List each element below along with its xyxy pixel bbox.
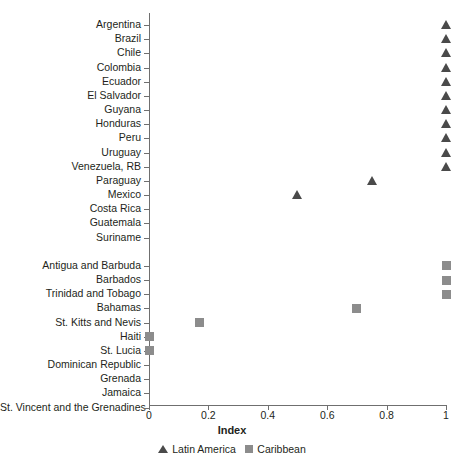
- data-point-triangle: [441, 162, 451, 171]
- legend-item-caribbean[interactable]: Caribbean: [245, 443, 306, 455]
- category-label: Chile: [0, 47, 141, 58]
- y-axis-tick: [144, 308, 149, 309]
- data-point-triangle: [292, 190, 302, 199]
- category-label: Grenada: [0, 373, 141, 384]
- y-axis-tick: [144, 238, 149, 239]
- category-label: St. Vincent and the Grenadines: [0, 402, 141, 413]
- data-point-square: [352, 304, 361, 313]
- square-marker-icon: [245, 445, 254, 454]
- category-label: Guyana: [0, 104, 141, 115]
- data-point-triangle: [441, 133, 451, 142]
- category-label: Peru: [0, 132, 141, 143]
- y-axis-tick: [144, 96, 149, 97]
- category-label: Colombia: [0, 62, 141, 73]
- data-point-triangle: [441, 119, 451, 128]
- data-point-triangle: [441, 91, 451, 100]
- category-label: Dominican Republic: [0, 359, 141, 370]
- legend-item-latin-america[interactable]: Latin America: [158, 443, 236, 455]
- data-point-triangle: [441, 105, 451, 114]
- y-axis-tick: [144, 195, 149, 196]
- y-axis-tick: [144, 181, 149, 182]
- category-label: Haiti: [0, 331, 141, 342]
- x-axis-title: Index: [0, 424, 464, 436]
- y-axis-tick: [144, 365, 149, 366]
- category-label: Barbados: [0, 274, 141, 285]
- category-label: El Salvador: [0, 90, 141, 101]
- y-axis-tick: [144, 266, 149, 267]
- category-label: Mexico: [0, 189, 141, 200]
- category-label: Jamaica: [0, 387, 141, 398]
- x-axis-line: [149, 405, 446, 406]
- y-axis-tick: [144, 124, 149, 125]
- category-label: Uruguay: [0, 147, 141, 158]
- x-axis-tick-label: 1: [443, 409, 449, 421]
- y-axis-tick: [144, 110, 149, 111]
- x-axis-tick-label: 0: [146, 409, 152, 421]
- data-point-triangle: [367, 176, 377, 185]
- data-point-triangle: [441, 34, 451, 43]
- data-point-triangle: [441, 63, 451, 72]
- legend-label: Caribbean: [257, 443, 305, 455]
- category-label: Guatemala: [0, 217, 141, 228]
- category-label: Argentina: [0, 19, 141, 30]
- data-point-square: [442, 261, 451, 270]
- category-label: Costa Rica: [0, 203, 141, 214]
- category-label: St. Kitts and Nevis: [0, 317, 141, 328]
- data-point-triangle: [441, 48, 451, 57]
- data-point-square: [145, 346, 154, 355]
- y-axis-tick: [144, 153, 149, 154]
- category-label: St. Lucia: [0, 345, 141, 356]
- data-point-triangle: [441, 20, 451, 29]
- category-label: Antigua and Barbuda: [0, 260, 141, 271]
- y-axis-tick: [144, 379, 149, 380]
- data-point-square: [145, 332, 154, 341]
- category-label: Trinidad and Tobago: [0, 288, 141, 299]
- x-axis-tick-label: 0.6: [320, 409, 335, 421]
- y-axis-tick: [144, 209, 149, 210]
- y-axis-tick: [144, 167, 149, 168]
- category-label: Bahamas: [0, 302, 141, 313]
- x-axis-tick-label: 0.4: [260, 409, 275, 421]
- x-axis-tick-label: 0.8: [379, 409, 394, 421]
- data-point-triangle: [441, 77, 451, 86]
- y-axis-tick: [144, 223, 149, 224]
- y-axis-tick: [144, 39, 149, 40]
- data-point-square: [442, 276, 451, 285]
- data-point-square: [442, 290, 451, 299]
- scatter-chart: ArgentinaBrazilChileColombiaEcuadorEl Sa…: [0, 0, 464, 463]
- category-label: Ecuador: [0, 76, 141, 87]
- triangle-marker-icon: [158, 445, 168, 453]
- y-axis-tick: [144, 53, 149, 54]
- y-axis-tick: [144, 25, 149, 26]
- y-axis-tick: [144, 294, 149, 295]
- category-label: Paraguay: [0, 175, 141, 186]
- category-label: Venezuela, RB: [0, 161, 141, 172]
- data-point-square: [195, 318, 204, 327]
- category-label: Brazil: [0, 33, 141, 44]
- y-axis-tick: [144, 323, 149, 324]
- data-point-triangle: [441, 148, 451, 157]
- y-axis-tick: [144, 393, 149, 394]
- category-label: Honduras: [0, 118, 141, 129]
- y-axis-tick: [144, 82, 149, 83]
- chart-legend: Latin America Caribbean: [0, 443, 464, 455]
- y-axis-tick: [144, 280, 149, 281]
- x-axis-tick-label: 0.2: [201, 409, 216, 421]
- y-axis-tick: [144, 68, 149, 69]
- category-label: Suriname: [0, 232, 141, 243]
- y-axis-tick: [144, 138, 149, 139]
- legend-label: Latin America: [172, 443, 236, 455]
